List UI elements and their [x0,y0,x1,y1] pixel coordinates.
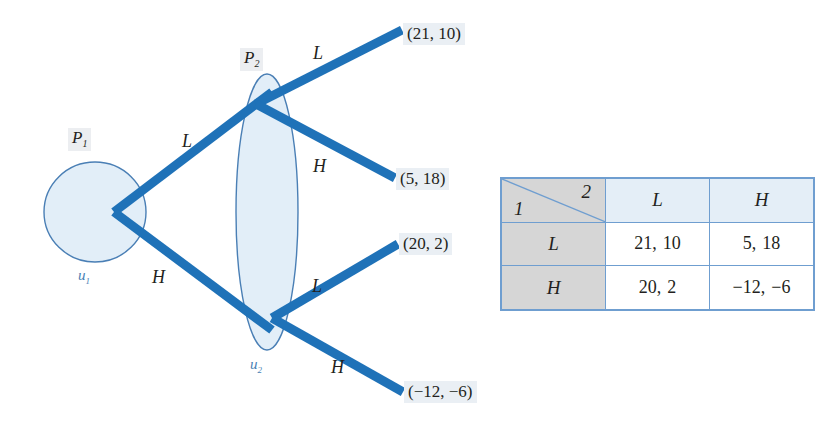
edge-p2upper-L [256,30,402,104]
node-label-p2: P2 [240,48,263,71]
edge-label-p1-L: L [182,132,192,150]
table-row-header: 2 1 L H [502,179,814,223]
payoff-terminal-4: (−12, −6) [404,381,477,403]
payoff-terminal-3: (20, 2) [399,233,452,255]
figure-canvas: P1 P2 u1 u2 L H L H L H (21, 10) (5, 18)… [0,0,818,427]
matrix-col-header-H: H [710,179,814,223]
matrix-corner-cell: 2 1 [502,179,606,223]
payoff-terminal-1: (21, 10) [403,23,465,45]
info-set-label-u2: u2 [250,357,262,375]
matrix-row-header-L: L [502,222,606,266]
matrix-col-header-L: L [606,179,710,223]
matrix-cell-HL-p1: 20, [639,277,662,298]
matrix-row-player-label: 1 [514,198,524,220]
info-set-label-u1: u1 [78,268,90,286]
edge-label-p2upper-L: L [313,44,323,62]
matrix-cell-LL-p1: 21, [634,233,657,254]
matrix-cell-LH-p1: 5, [743,233,757,254]
payoff-terminal-2: (5, 18) [396,168,449,190]
matrix-cell-HH: −12, −6 [710,266,814,310]
matrix-cell-HH-p1: −12, [733,277,766,298]
node-label-p1: P1 [68,128,91,151]
edge-label-p2lower-H: H [331,358,344,376]
payoff-matrix-table: 2 1 L H L 21, 10 5, 18 [501,178,814,310]
matrix-col-player-label: 2 [582,181,592,203]
node-p1-circle [44,162,146,262]
matrix-cell-LL-p2: 10 [663,233,681,254]
edge-label-p2lower-L: L [312,277,322,295]
matrix-cell-HH-p2: −6 [771,277,790,298]
matrix-cell-LH: 5, 18 [710,222,814,266]
edge-label-p1-H: H [152,268,165,286]
matrix-cell-LL: 21, 10 [606,222,710,266]
matrix-cell-HL: 20, 2 [606,266,710,310]
edge-label-p2upper-H: H [313,157,326,175]
matrix-cell-LH-p2: 18 [762,233,780,254]
edge-p2lower-H [272,318,403,392]
table-row: L 21, 10 5, 18 [502,222,814,266]
payoff-matrix: 2 1 L H L 21, 10 5, 18 [500,177,815,311]
matrix-cell-HL-p2: 2 [667,277,676,298]
table-row: H 20, 2 −12, −6 [502,266,814,310]
matrix-row-header-H: H [502,266,606,310]
